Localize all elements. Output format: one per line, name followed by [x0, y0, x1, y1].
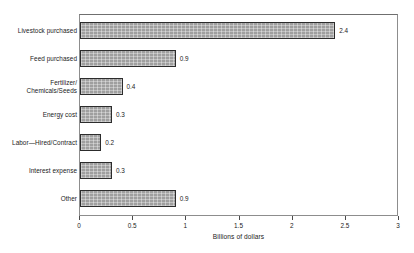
x-axis-tick-label: 3 [396, 222, 400, 230]
bar-row: Energy cost0.3 [0, 106, 414, 123]
bar-row: Interest expense0.3 [0, 162, 414, 179]
category-label: Energy cost [0, 111, 77, 119]
category-label: Feed purchased [0, 55, 77, 63]
bar-5[interactable] [80, 134, 101, 151]
bar-value-label: 0.2 [105, 139, 114, 146]
x-axis-tick-label: 1.5 [234, 222, 243, 230]
bar-row: Other0.9 [0, 190, 414, 207]
bar-chart: Livestock purchased2.4Feed purchased0.9F… [0, 0, 414, 253]
bar-value-label: 0.3 [116, 167, 125, 174]
bar-wrapper: 0.2 [80, 134, 114, 151]
bar-wrapper: 0.9 [80, 190, 189, 207]
bar-2[interactable] [80, 50, 176, 67]
bar-6[interactable] [80, 162, 112, 179]
x-axis-title: Billions of dollars [79, 233, 398, 241]
bar-wrapper: 0.3 [80, 162, 125, 179]
x-axis-tick [345, 216, 346, 220]
bar-wrapper: 0.4 [80, 78, 135, 95]
bar-value-label: 0.4 [127, 83, 136, 90]
bar-3[interactable] [80, 78, 123, 95]
bar-1[interactable] [80, 22, 335, 39]
x-axis: 00.511.522.53 [79, 216, 398, 217]
bar-row: Fertilizer/ Chemicals/Seeds0.4 [0, 78, 414, 95]
x-axis-tick-label: 2.5 [340, 222, 349, 230]
category-label: Labor—Hired/Contract [0, 139, 77, 147]
x-axis-tick [398, 216, 399, 220]
x-axis-tick-label: 0.5 [128, 222, 137, 230]
clipped-header-text [6, 0, 406, 6]
category-label: Fertilizer/ Chemicals/Seeds [0, 79, 77, 94]
x-axis-tick [132, 216, 133, 220]
x-axis-tick [185, 216, 186, 220]
bar-wrapper: 2.4 [80, 22, 348, 39]
bar-rows-container: Livestock purchased2.4Feed purchased0.9F… [0, 14, 414, 216]
bar-value-label: 0.9 [180, 55, 189, 62]
x-axis-tick-label: 0 [77, 222, 81, 230]
bar-value-label: 2.4 [339, 27, 348, 34]
bar-wrapper: 0.9 [80, 50, 189, 67]
bar-7[interactable] [80, 190, 176, 207]
x-axis-tick-label: 1 [184, 222, 188, 230]
category-label: Other [0, 195, 77, 203]
category-label: Interest expense [0, 167, 77, 175]
category-label: Livestock purchased [0, 27, 77, 35]
bar-value-label: 0.9 [180, 195, 189, 202]
bar-value-label: 0.3 [116, 111, 125, 118]
x-axis-tick [79, 216, 80, 220]
bar-wrapper: 0.3 [80, 106, 125, 123]
x-axis-tick [239, 216, 240, 220]
bar-row: Livestock purchased2.4 [0, 22, 414, 39]
bar-4[interactable] [80, 106, 112, 123]
bar-row: Feed purchased0.9 [0, 50, 414, 67]
x-axis-tick [292, 216, 293, 220]
x-axis-tick-label: 2 [290, 222, 294, 230]
bar-row: Labor—Hired/Contract0.2 [0, 134, 414, 151]
